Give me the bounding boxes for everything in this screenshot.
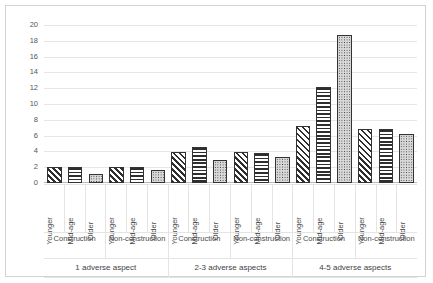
bar[interactable] [151,170,166,183]
y-tick-16: 16 [12,53,38,61]
bar-slot [293,25,314,183]
bar[interactable] [296,126,311,183]
y-tick-14: 14 [12,68,38,76]
bar-slot [396,25,417,183]
bar[interactable] [109,167,124,183]
y-axis-tick-labels: 20181614121086420 [10,25,38,183]
bar-slot [189,25,210,183]
age-cell: Older [148,184,169,232]
y-tick-18: 18 [12,37,38,45]
bar-slot [210,25,231,183]
industry-label: Construction [44,232,106,258]
industry-label: Non-construction [231,232,293,258]
bar[interactable] [213,160,228,183]
age-cell: Younger [169,184,190,232]
y-tick-12: 12 [12,84,38,92]
age-cell: Older [273,184,294,232]
bar[interactable] [130,167,145,183]
y-tick-4: 4 [12,147,38,155]
age-cell: Older [86,184,107,232]
bar-slot [148,25,169,183]
age-cell: Mid-age [252,184,273,232]
industry-label: Non-construction [106,232,168,258]
bar[interactable] [358,129,373,183]
bar-slot [272,25,293,183]
adverse-group-label: 1 adverse aspect [44,258,169,277]
y-tick-10: 10 [12,100,38,108]
bar[interactable] [47,167,62,183]
age-cell: Younger [356,184,377,232]
bar-slot [106,25,127,183]
bar-slot [44,25,65,183]
bar[interactable] [234,152,249,183]
age-cell: Older [210,184,231,232]
industry-label: Construction [169,232,231,258]
age-cell: Younger [231,184,252,232]
bar[interactable] [379,129,394,184]
age-cell: Younger [293,184,314,232]
bar-slot [127,25,148,183]
industry-label: Construction [293,232,355,258]
bar-series-container [44,25,417,183]
bar-slot [313,25,334,183]
bar[interactable] [171,152,186,183]
bar-slot [334,25,355,183]
bar-slot [85,25,106,183]
age-cell: Older [335,184,356,232]
industry-label-row: ConstructionNon-constructionConstruction… [44,232,417,258]
adverse-group-label: 4-5 adverse aspects [293,258,417,277]
bar[interactable] [337,35,352,183]
age-cell: Younger [44,184,65,232]
divider-bottom [44,277,417,278]
age-cell: Mid-age [65,184,86,232]
age-cell: Mid-age [377,184,398,232]
age-cell: Younger [106,184,127,232]
plot-area [44,25,417,183]
bar[interactable] [68,167,83,183]
industry-label: Non-construction [356,232,417,258]
age-cell: Mid-age [314,184,335,232]
adverse-group-label-row: 1 adverse aspect2-3 adverse aspects4-5 a… [44,258,417,277]
bar[interactable] [399,134,414,183]
age-group-label-row: YoungerMid-ageOlderYoungerMid-ageOlderYo… [44,184,417,232]
age-cell: Older [397,184,417,232]
bar-slot [65,25,86,183]
chart-frame: 20181614121086420 YoungerMid-ageOlderYou… [5,5,426,277]
age-cell: Mid-age [127,184,148,232]
y-tick-6: 6 [12,132,38,140]
bar[interactable] [275,157,290,183]
bar[interactable] [316,87,331,183]
bar-slot [251,25,272,183]
y-tick-0: 0 [12,179,38,187]
y-tick-8: 8 [12,116,38,124]
adverse-group-label: 2-3 adverse aspects [169,258,294,277]
bar[interactable] [254,153,269,183]
y-tick-2: 2 [12,163,38,171]
bar-slot [168,25,189,183]
bar-slot [230,25,251,183]
y-tick-20: 20 [12,21,38,29]
bar-slot [376,25,397,183]
bar-slot [355,25,376,183]
bar[interactable] [192,147,207,183]
age-cell: Mid-age [189,184,210,232]
bar[interactable] [89,174,104,183]
